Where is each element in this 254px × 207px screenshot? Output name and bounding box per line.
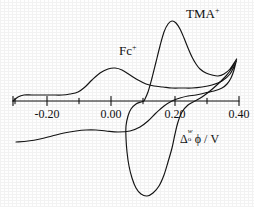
x-axis-tick-label: -0.20 <box>35 108 60 120</box>
axis-title-separator: / <box>201 132 210 146</box>
x-axis-tick-label: 0.00 <box>101 108 122 120</box>
voltammogram-plot-area <box>0 0 254 207</box>
axis-title-unit: V <box>210 132 219 146</box>
x-axis-title: Δ w o ϕ / V <box>180 131 219 145</box>
axis-title-delta: Δ <box>180 132 188 146</box>
fc-label-base: Fc <box>119 43 132 58</box>
x-axis <box>13 97 239 106</box>
x-axis-tick-label: 0.20 <box>165 108 186 120</box>
fc-label-charge: + <box>132 43 137 52</box>
tma-peak-label: TMA+ <box>186 7 219 20</box>
axis-title-superscript: w <box>188 128 193 135</box>
cyclic-voltammogram-figure: -0.200.000.200.40 TMA+ Fc+ Δ w o ϕ / V <box>0 0 254 207</box>
tma-label-charge: + <box>215 6 220 15</box>
x-axis-tick-label: 0.40 <box>229 108 250 120</box>
tma-label-base: TMA <box>186 6 215 21</box>
axis-title-subscript: o <box>188 136 192 143</box>
fc-peak-label: Fc+ <box>119 44 137 57</box>
